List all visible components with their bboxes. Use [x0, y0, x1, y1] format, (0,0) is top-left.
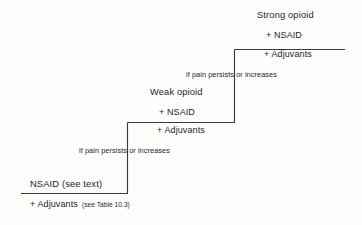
step-1-adjuvants-text: + Adjuvants: [30, 199, 78, 209]
step-1-line-adjuvants: + Adjuvants(see Table 10.3): [30, 200, 130, 209]
step-3-line-nsaid: + NSAID: [266, 31, 302, 40]
step-3-line-adjuvants: + Adjuvants: [264, 50, 312, 59]
step-2-title: Weak opioid: [150, 88, 203, 97]
step-2-line-adjuvants: + Adjuvants: [157, 126, 205, 135]
connector-2-label: if pain persists or increases: [186, 71, 277, 78]
connector-1-label: if pain persists or increases: [79, 147, 170, 154]
analgesic-ladder-figure: Strong opioid + NSAID + Adjuvants if pai…: [0, 0, 362, 225]
step-1-title: NSAID (see text): [30, 180, 102, 189]
step-1-table-reference: (see Table 10.3): [82, 201, 130, 208]
step-2-line-nsaid: + NSAID: [159, 108, 195, 117]
step-3-title: Strong opioid: [257, 11, 314, 20]
